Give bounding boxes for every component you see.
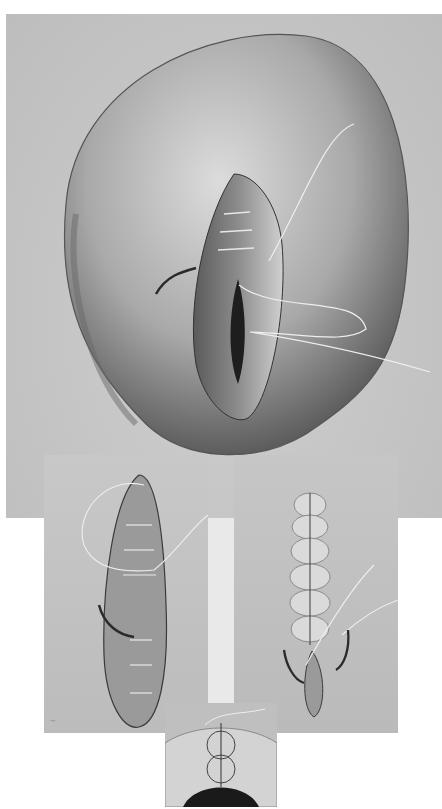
illustration-panel-top [6, 14, 442, 518]
illustration-panel-lower-left: ~ [44, 455, 208, 733]
suture-thread [205, 709, 265, 725]
artist-signature: ~ [50, 717, 56, 725]
illustration-inset-cross-section [165, 703, 277, 807]
suture-thread [342, 600, 398, 635]
incision [104, 475, 167, 727]
incision-illustration-left: ~ [44, 455, 208, 733]
open-incision-tail [305, 651, 323, 717]
needle [336, 630, 348, 670]
cross-section-illustration [165, 703, 277, 807]
organ-illustration [6, 14, 442, 518]
illustration-panel-lower-right [234, 455, 398, 733]
needle [284, 650, 304, 683]
incision-illustration-right [234, 455, 398, 733]
divider-strip [208, 518, 234, 733]
